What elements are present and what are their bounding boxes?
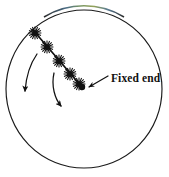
motion-arrow-inner xyxy=(53,73,61,106)
rod-burst-mark-2 xyxy=(41,41,54,54)
fixed-end-label: Fixed end xyxy=(111,72,161,84)
figure-container: Fixed end xyxy=(0,0,169,177)
flexible-rod-group xyxy=(29,27,86,91)
motion-arrow-outer xyxy=(25,54,37,91)
motion-arrows-group xyxy=(25,54,61,106)
rod-burst-mark-1 xyxy=(29,27,42,40)
rod-burst-mark-3 xyxy=(53,55,66,68)
fixed-end-dot xyxy=(79,84,85,90)
fixed-end-callout-arrow xyxy=(89,76,108,87)
physics-diagram-svg: Fixed end xyxy=(0,0,169,177)
rod-burst-mark-4 xyxy=(64,68,77,81)
